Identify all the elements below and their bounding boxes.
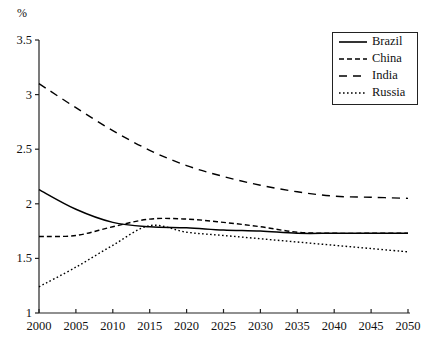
x-tick-label: 2050 — [388, 320, 425, 332]
series-line-china — [39, 218, 408, 236]
x-tick-label: 2040 — [314, 320, 354, 332]
x-tick-label: 2030 — [240, 320, 280, 332]
legend-line-brazil — [338, 37, 368, 47]
line-chart: % 11.522.533.5 2000200520102015202020252… — [0, 0, 425, 354]
y-tick-label: 2.5 — [16, 143, 32, 155]
legend-line-russia — [338, 88, 368, 98]
legend-line-china — [338, 54, 368, 64]
legend-line-india — [338, 71, 368, 81]
legend-item-russia: Russia — [338, 84, 417, 101]
legend-label-india: India — [372, 68, 398, 83]
data-series-group — [39, 84, 408, 287]
x-tick-label: 2020 — [167, 320, 207, 332]
legend-label-china: China — [372, 51, 402, 66]
x-tick-label: 2010 — [93, 320, 133, 332]
legend-item-china: China — [338, 50, 417, 67]
y-tick-label: 1.5 — [16, 252, 32, 264]
x-tick-label: 2035 — [277, 320, 317, 332]
x-tick-label: 2005 — [56, 320, 96, 332]
series-line-russia — [39, 225, 408, 287]
legend-label-russia: Russia — [372, 85, 405, 100]
x-tick-label: 2025 — [204, 320, 244, 332]
y-tick-label: 3.5 — [16, 34, 32, 46]
series-line-brazil — [39, 190, 408, 234]
x-tick-label: 2045 — [351, 320, 391, 332]
x-tick-label: 2000 — [19, 320, 59, 332]
y-tick-label: 3 — [26, 89, 32, 101]
x-tick-label: 2015 — [130, 320, 170, 332]
legend-item-india: India — [338, 67, 417, 84]
legend-label-brazil: Brazil — [372, 34, 403, 49]
legend-item-brazil: Brazil — [338, 33, 417, 50]
y-tick-label: 2 — [26, 198, 32, 210]
y-tick-label: 1 — [26, 307, 32, 319]
chart-legend: Brazil China India Russia — [332, 32, 418, 105]
